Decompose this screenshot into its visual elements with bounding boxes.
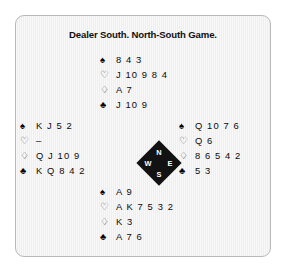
hand-south: ♠ A 9 ♡ A K 7 5 3 2 ♢ K 3 ♣ A 7 6: [100, 184, 174, 244]
hand-south-clubs: A 7 6: [112, 231, 143, 242]
hand-east-spades: Q 10 7 6: [191, 120, 240, 131]
spade-icon: ♠: [100, 55, 112, 65]
hand-east-hearts: Q 6: [191, 135, 213, 146]
diamond-icon: ♢: [100, 85, 112, 95]
heart-icon: ♡: [100, 70, 112, 80]
hand-south-hearts-row: ♡ A K 7 5 3 2: [100, 199, 174, 214]
hand-north-spades-row: ♠ 8 4 3: [100, 52, 168, 67]
hand-north-hearts: J 10 9 8 4: [112, 69, 168, 80]
hand-east-clubs-row: ♣ 5 3: [179, 163, 241, 178]
hand-south-spades-row: ♠ A 9: [100, 184, 174, 199]
hand-north-hearts-row: ♡ J 10 9 8 4: [100, 67, 168, 82]
hand-north-diamonds-row: ♢ A 7: [100, 82, 168, 97]
hand-east-diamonds: 8 6 5 4 2: [191, 150, 241, 161]
hand-north-clubs-row: ♣ J 10 9: [100, 97, 168, 112]
spade-icon: ♠: [20, 121, 32, 131]
diamond-icon: ♢: [100, 217, 112, 227]
hand-west-spades: K J 5 2: [32, 120, 73, 131]
club-icon: ♣: [100, 232, 112, 242]
hand-north: ♠ 8 4 3 ♡ J 10 9 8 4 ♢ A 7 ♣ J 10 9: [100, 52, 168, 112]
hand-south-diamonds-row: ♢ K 3: [100, 214, 174, 229]
hand-north-diamonds: A 7: [112, 84, 133, 95]
hand-south-clubs-row: ♣ A 7 6: [100, 229, 174, 244]
compass-label-north: N: [153, 149, 165, 156]
compass-label-west: W: [142, 160, 154, 167]
heart-icon: ♡: [20, 136, 32, 146]
hand-west-hearts-row: ♡ –: [20, 133, 86, 148]
spade-icon: ♠: [100, 187, 112, 197]
hand-west-spades-row: ♠ K J 5 2: [20, 118, 86, 133]
hand-south-diamonds: K 3: [112, 216, 133, 227]
hand-east-clubs: 5 3: [191, 165, 211, 176]
hand-west-diamonds: Q J 10 9: [32, 150, 80, 161]
hand-north-spades: 8 4 3: [112, 54, 142, 65]
club-icon: ♣: [20, 166, 32, 176]
spade-icon: ♠: [179, 121, 191, 131]
club-icon: ♣: [100, 100, 112, 110]
hand-south-spades: A 9: [112, 186, 133, 197]
diamond-icon: ♢: [20, 151, 32, 161]
hand-west-hearts: –: [32, 135, 42, 146]
hand-west-clubs-row: ♣ K Q 8 4 2: [20, 163, 86, 178]
deal-title: Dealer South. North-South Game.: [16, 29, 270, 40]
hand-west: ♠ K J 5 2 ♡ – ♢ Q J 10 9 ♣ K Q 8 4 2: [20, 118, 86, 178]
compass-rose: N W E S: [136, 140, 182, 186]
heart-icon: ♡: [100, 202, 112, 212]
hand-north-clubs: J 10 9: [112, 99, 148, 110]
bridge-deal-diagram: Dealer South. North-South Game. ♠ 8 4 3 …: [15, 15, 271, 257]
compass-label-south: S: [153, 171, 165, 178]
hand-west-diamonds-row: ♢ Q J 10 9: [20, 148, 86, 163]
hand-west-clubs: K Q 8 4 2: [32, 165, 86, 176]
hand-east-diamonds-row: ♢ 8 6 5 4 2: [179, 148, 241, 163]
hand-east-hearts-row: ♡ Q 6: [179, 133, 241, 148]
hand-east-spades-row: ♠ Q 10 7 6: [179, 118, 241, 133]
hand-east: ♠ Q 10 7 6 ♡ Q 6 ♢ 8 6 5 4 2 ♣ 5 3: [179, 118, 241, 178]
compass-label-east: E: [164, 160, 176, 167]
hand-south-hearts: A K 7 5 3 2: [112, 201, 174, 212]
